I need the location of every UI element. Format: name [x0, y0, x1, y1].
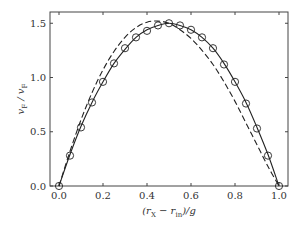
open-circle-marker — [121, 45, 128, 52]
y-tick-label: 0.5 — [30, 126, 46, 137]
x-tick-label: 0.8 — [227, 190, 243, 201]
axis-ticks: 0.00.20.40.60.81.00.00.51.01.5 — [30, 12, 288, 201]
x-tick-label: 0.6 — [183, 190, 199, 201]
chart: 0.00.20.40.60.81.00.00.51.01.5 (rX − rin… — [0, 0, 302, 228]
x-tick-label: 0.0 — [51, 190, 67, 201]
y-axis-label: vF / vF — [15, 83, 29, 114]
x-tick-label: 0.2 — [95, 190, 111, 201]
solid-curve — [59, 23, 279, 186]
x-tick-label: 1.0 — [271, 190, 287, 201]
x-tick-label: 0.4 — [139, 190, 155, 201]
open-circle-marker — [220, 61, 227, 68]
y-tick-label: 1.0 — [30, 72, 46, 83]
plot-frame — [50, 12, 288, 186]
y-tick-label: 1.5 — [30, 18, 46, 29]
plot-border — [50, 12, 288, 186]
data-series — [55, 20, 282, 190]
x-axis-label: (rX − rin)/g — [142, 205, 196, 219]
y-tick-label: 0.0 — [30, 181, 46, 192]
